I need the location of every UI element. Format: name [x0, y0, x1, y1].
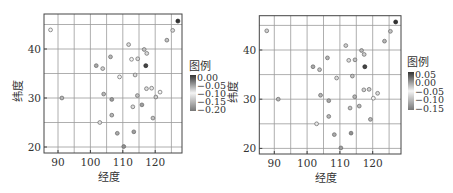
- data-point: [344, 44, 348, 48]
- data-point: [319, 93, 323, 97]
- data-point: [367, 87, 371, 91]
- data-point: [165, 38, 169, 42]
- y-axis-label: 纬度: [11, 80, 25, 102]
- x-tick-label: 110: [113, 156, 133, 168]
- colorbar: [408, 72, 414, 110]
- data-point: [176, 19, 180, 23]
- data-point: [130, 57, 134, 61]
- y-axis-label: 纬度: [226, 81, 240, 103]
- data-point: [347, 58, 351, 62]
- data-point: [49, 28, 53, 32]
- data-point: [98, 121, 102, 125]
- y-tick-label: 40: [243, 44, 256, 56]
- data-point: [353, 58, 357, 62]
- data-point: [353, 95, 357, 99]
- x-tick-label: 120: [363, 157, 383, 169]
- scatter-plot-right: 90100110120203040经度纬度图例0.050.00−0.05−0.1…: [226, 0, 453, 193]
- data-point: [369, 117, 373, 121]
- data-point: [332, 133, 336, 137]
- data-point: [110, 113, 114, 117]
- data-point: [335, 76, 339, 80]
- plot-area: [44, 14, 182, 153]
- data-point: [360, 49, 364, 53]
- y-tick-label: 40: [28, 43, 41, 55]
- data-point: [145, 87, 149, 91]
- data-point: [136, 57, 140, 61]
- data-point: [135, 94, 139, 98]
- data-point: [122, 145, 126, 149]
- data-point: [363, 65, 367, 69]
- plot-area: [259, 16, 401, 154]
- data-point: [394, 20, 398, 24]
- data-point: [158, 90, 162, 94]
- colorbar-tick-label: −0.20: [197, 104, 226, 115]
- data-point: [150, 86, 154, 90]
- data-point: [276, 97, 280, 101]
- x-tick-label: 90: [268, 157, 281, 169]
- x-axis-label: 经度: [315, 171, 337, 185]
- data-point: [315, 122, 319, 126]
- data-point: [350, 74, 354, 78]
- scatter-plot-left: 90100110120203040经度纬度图例0.00−0.05−0.10−0.…: [0, 0, 226, 193]
- y-tick-label: 20: [28, 141, 41, 153]
- data-point: [318, 68, 322, 72]
- data-point: [265, 29, 269, 33]
- data-point: [131, 105, 135, 109]
- data-point: [326, 56, 330, 60]
- y-tick-label: 30: [28, 92, 41, 104]
- data-point: [102, 92, 106, 96]
- data-point: [132, 130, 136, 134]
- data-point: [154, 95, 158, 99]
- data-point: [362, 53, 366, 57]
- data-point: [376, 91, 380, 95]
- data-point: [101, 67, 105, 71]
- data-point: [362, 88, 366, 92]
- x-tick-label: 90: [51, 156, 64, 168]
- data-point: [140, 103, 144, 107]
- data-point: [389, 29, 393, 33]
- data-point: [151, 116, 155, 120]
- data-point: [371, 96, 375, 100]
- data-point: [94, 64, 98, 68]
- data-point: [311, 65, 315, 69]
- x-tick-label: 110: [330, 157, 350, 169]
- data-point: [349, 131, 353, 135]
- data-point: [348, 106, 352, 110]
- y-tick-label: 30: [243, 93, 256, 105]
- data-point: [118, 75, 122, 79]
- y-tick-label: 20: [243, 142, 256, 154]
- x-tick-label: 100: [297, 157, 317, 169]
- data-point: [115, 131, 119, 135]
- data-point: [60, 96, 64, 100]
- data-point: [327, 99, 331, 103]
- data-point: [142, 48, 146, 52]
- data-point: [357, 104, 361, 108]
- data-point: [327, 115, 331, 119]
- data-point: [339, 146, 343, 150]
- data-point: [383, 39, 387, 43]
- data-point: [145, 52, 149, 56]
- data-point: [133, 73, 137, 77]
- data-point: [110, 98, 114, 102]
- data-point: [109, 55, 113, 59]
- data-point: [127, 43, 131, 47]
- chart-left: 90100110120203040经度纬度图例0.00−0.05−0.10−0.…: [0, 0, 226, 193]
- colorbar: [190, 75, 196, 111]
- data-point: [171, 28, 175, 32]
- x-tick-label: 120: [145, 156, 165, 168]
- x-tick-label: 100: [80, 156, 100, 168]
- data-point: [144, 64, 148, 68]
- colorbar-tick-label: −0.15: [415, 103, 444, 114]
- chart-right: 90100110120203040经度纬度图例0.050.00−0.05−0.1…: [226, 0, 453, 193]
- x-axis-label: 经度: [98, 170, 120, 184]
- legend-title: 图例: [407, 55, 429, 69]
